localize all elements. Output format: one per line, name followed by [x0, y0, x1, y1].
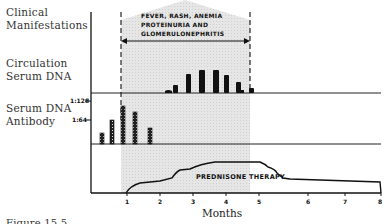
row-label-clinical: Clinical Manifestations: [6, 6, 88, 32]
clinical-text-line2: PROTEINURIA AND: [141, 20, 224, 29]
row-label-clinical-line1: Clinical: [6, 6, 88, 19]
x-tick-2: 2: [158, 198, 162, 205]
row-label-dna: Circulation Serum DNA: [6, 57, 71, 83]
x-tick-1: 1: [125, 198, 129, 205]
x-tick-7: 7: [343, 198, 347, 205]
row-label-antibody: Serum DNA Antibody: [6, 102, 71, 128]
x-tick-6: 6: [306, 198, 310, 205]
x-tick-5: 5: [257, 198, 261, 205]
x-tick-4: 4: [224, 198, 228, 205]
row-label-clinical-line2: Manifestations: [6, 19, 88, 32]
x-tick-3: 3: [191, 198, 195, 205]
row-label-antibody-line1: Serum DNA: [6, 102, 71, 115]
figure-caption: Figure 15.5: [6, 216, 67, 224]
row-label-dna-line2: Serum DNA: [6, 70, 71, 83]
antibody-tick-64: 1:64: [72, 116, 87, 123]
x-tick-8: 8: [378, 198, 382, 205]
clinical-text-line1: FEVER, RASH, ANEMIA: [141, 11, 224, 20]
antibody-tick-128: 1:128: [70, 97, 89, 104]
row-label-dna-line1: Circulation: [6, 57, 71, 70]
clinical-text-line3: GLOMERULONEPHRITIS: [141, 29, 224, 38]
row-label-antibody-line2: Antibody: [6, 115, 71, 128]
x-axis-label: Months: [202, 207, 242, 219]
clinical-manifestations-text: FEVER, RASH, ANEMIA PROTEINURIA AND GLOM…: [141, 11, 224, 38]
prednisone-therapy-label: PREDNISONE THERAPY: [196, 173, 285, 182]
